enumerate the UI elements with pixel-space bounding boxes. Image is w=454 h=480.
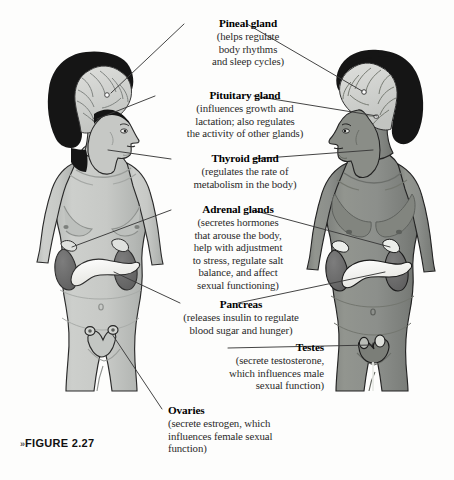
label-pituitary-gland-line-3: the activity of other glands) (140, 127, 350, 140)
label-testes-title: Testes (172, 341, 324, 354)
label-thyroid-gland-line-2: metabolism in the body) (150, 178, 340, 191)
label-pineal-gland-line-1: (helps regulate (150, 30, 346, 43)
label-testes-line-1: (secrete testosterone, (172, 354, 324, 367)
label-adrenal-glands-line-1: (secretes hormones (158, 216, 318, 229)
ovary-left-core (88, 329, 92, 333)
caption-label: FIGURE 2.27 (25, 437, 94, 449)
label-pancreas-line-1: (releases insulin to regulate (146, 311, 336, 324)
label-pineal-gland-line-3: and sleep cycles) (150, 55, 346, 68)
label-adrenal-glands-line-2: that arouse the body, (158, 229, 318, 242)
pineal-gland-female[interactable] (105, 93, 110, 98)
label-thyroid-gland-title: Thyroid gland (150, 152, 340, 165)
label-pituitary-gland-line-2: lactation; also regulates (140, 115, 350, 128)
female-nipple-right (134, 225, 139, 229)
male-nipple-left (346, 230, 352, 234)
label-pituitary-gland-line-1: (influences growth and (140, 102, 350, 115)
male-leg-gap (369, 372, 375, 391)
label-ovaries: Ovaries (secrete estrogen, which influen… (168, 404, 318, 455)
label-pancreas-line-2: blood sugar and hunger) (146, 324, 336, 337)
label-ovaries-line-3: function) (168, 442, 318, 455)
pineal-gland-male[interactable] (362, 90, 367, 95)
label-testes-line-2: which influences male (172, 367, 324, 380)
female-pupil (124, 130, 127, 133)
label-ovaries-line-2: influences female sexual (168, 430, 318, 443)
label-thyroid-gland-line-1: (regulates the rate of (150, 165, 340, 178)
label-pineal-gland: Pineal gland (helps regulate body rhythm… (150, 17, 346, 68)
label-testes-line-3: sexual function) (172, 379, 324, 392)
label-pancreas: Pancreas (releases insulin to regulate b… (146, 298, 336, 336)
testis-right[interactable] (375, 335, 385, 347)
label-pineal-gland-line-2: body rhythms (150, 43, 346, 56)
testis-left[interactable] (359, 337, 368, 348)
label-pancreas-title: Pancreas (146, 298, 336, 311)
label-thyroid-gland: Thyroid gland (regulates the rate of met… (150, 152, 340, 190)
label-testes: Testes (secrete testosterone, which infl… (172, 341, 324, 392)
label-adrenal-glands-title: Adrenal glands (158, 203, 318, 216)
ovary-right-core (111, 328, 115, 332)
label-ovaries-line-1: (secrete estrogen, which (168, 417, 318, 430)
female-leg-gap (97, 366, 103, 391)
label-pituitary-gland: Pituitary gland (influences growth and l… (140, 89, 350, 140)
female-nipple-left (63, 225, 68, 229)
caption-chevron-icon: » (20, 439, 24, 449)
label-pituitary-gland-title: Pituitary gland (140, 89, 350, 102)
male-nipple-right (396, 230, 402, 234)
label-adrenal-glands-line-5: balance, and affect (158, 266, 318, 279)
label-ovaries-title: Ovaries (168, 404, 318, 417)
label-adrenal-glands-line-4: to stress, regulate salt (158, 254, 318, 267)
figure-endocrine-glands: Pineal gland (helps regulate body rhythm… (0, 0, 454, 480)
figure-caption: »FIGURE 2.27 (20, 437, 94, 449)
label-adrenal-glands: Adrenal glands (secretes hormones that a… (158, 203, 318, 291)
label-adrenal-glands-line-6: sexual functioning) (158, 279, 318, 292)
label-adrenal-glands-line-3: help with adjustment (158, 241, 318, 254)
label-pineal-gland-title: Pineal gland (150, 17, 346, 30)
